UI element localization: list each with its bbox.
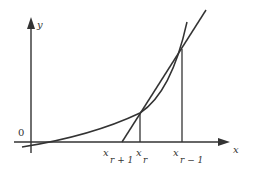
x-axis-label: x [233, 144, 239, 155]
svg-text:r + 1: r + 1 [110, 155, 133, 165]
diagram-canvas: y 0 x x r + 1 x r x r − 1 [0, 0, 255, 173]
y-axis-label: y [36, 19, 43, 30]
tangent-line [122, 10, 206, 142]
svg-text:x: x [103, 147, 109, 158]
svg-text:x: x [173, 147, 179, 158]
tick-label-x-r-plus-1: x r + 1 [103, 147, 133, 165]
y-axis-arrow-icon [27, 17, 35, 29]
tick-label-x-r-minus-1: x r − 1 [173, 147, 203, 165]
svg-text:r: r [143, 155, 148, 165]
svg-text:x: x [136, 147, 142, 158]
function-curve [22, 22, 187, 147]
origin-label: 0 [18, 127, 24, 138]
svg-text:r − 1: r − 1 [180, 155, 203, 165]
tick-label-x-r: x r [136, 147, 148, 165]
x-axis-arrow-icon [218, 138, 230, 146]
